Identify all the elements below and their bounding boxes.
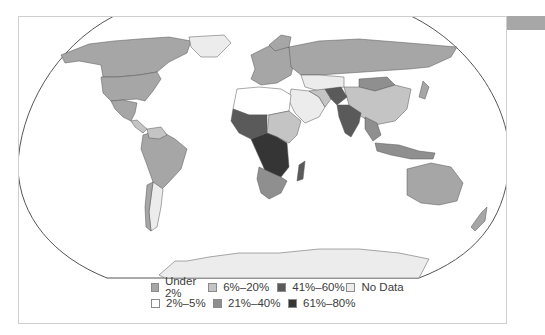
legend-swatch-under-2: [151, 283, 159, 292]
legend-item-21-40: 21%–40%: [213, 297, 288, 309]
legend-label: 6%–20%: [223, 281, 269, 293]
map-legend: Under 2% 6%–20% 41%–60% No Data 2%–5%: [151, 279, 411, 311]
legend-label: 2%–5%: [166, 297, 206, 309]
legend-swatch-2-5: [151, 299, 160, 308]
legend-label: Under 2%: [165, 275, 208, 299]
legend-row-1: Under 2% 6%–20% 41%–60% No Data: [151, 279, 411, 295]
region-north-africa: [233, 87, 291, 115]
legend-item-no-data: No Data: [346, 281, 411, 293]
legend-swatch-41-60: [277, 283, 286, 292]
legend-item-41-60: 41%–60%: [277, 281, 346, 293]
legend-item-under-2: Under 2%: [151, 275, 208, 299]
corner-tab: [506, 16, 545, 30]
legend-item-6-20: 6%–20%: [208, 281, 277, 293]
map-figure: Under 2% 6%–20% 41%–60% No Data 2%–5%: [18, 16, 507, 324]
legend-row-2: 2%–5% 21%–40% 61%–80%: [151, 295, 411, 311]
legend-item-61-80: 61%–80%: [288, 297, 363, 309]
legend-label: 21%–40%: [228, 297, 280, 309]
legend-swatch-no-data: [346, 283, 355, 292]
legend-label: 41%–60%: [292, 281, 344, 293]
world-map: [19, 17, 506, 323]
legend-item-2-5: 2%–5%: [151, 297, 213, 309]
legend-label: 61%–80%: [303, 297, 355, 309]
legend-swatch-61-80: [288, 299, 297, 308]
legend-swatch-6-20: [208, 283, 217, 292]
legend-label: No Data: [361, 281, 403, 293]
legend-swatch-21-40: [213, 299, 222, 308]
